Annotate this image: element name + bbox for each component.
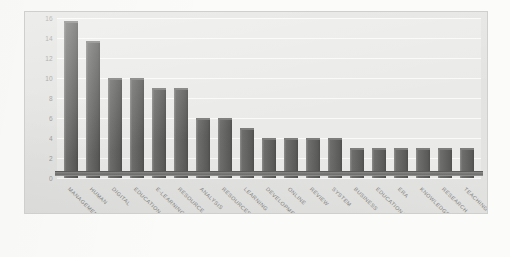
bar[interactable]	[196, 118, 210, 178]
bar[interactable]	[64, 21, 78, 178]
bar[interactable]	[86, 41, 100, 178]
bar[interactable]	[130, 78, 144, 178]
x-axis-baseline-3d	[55, 172, 483, 176]
bar-slot	[434, 18, 456, 178]
bar-slot	[346, 18, 368, 178]
bar-slot	[60, 18, 82, 178]
y-axis-tick-label: 0	[49, 175, 53, 182]
x-axis-category-label: ONLINE	[287, 186, 308, 206]
x-axis-category-label: SYSTEM	[331, 186, 353, 208]
x-axis-category-label: REVIEW	[309, 186, 330, 207]
bar-slot	[258, 18, 280, 178]
y-axis-tick-label: 12	[45, 55, 53, 62]
bar[interactable]	[152, 88, 166, 178]
bar-slot	[214, 18, 236, 178]
y-axis-tick-label: 6	[49, 115, 53, 122]
chart-panel: 1614121086420 MANAGEMENTHUMANDIGITALEDUC…	[24, 11, 488, 214]
bar-slot	[170, 18, 192, 178]
bar[interactable]	[218, 118, 232, 178]
y-axis-tick-label: 10	[45, 75, 53, 82]
bar-slot	[104, 18, 126, 178]
bar-slot	[82, 18, 104, 178]
plot-area: 1614121086420	[57, 18, 481, 178]
bar-slot	[192, 18, 214, 178]
bar-slot	[456, 18, 478, 178]
gridline	[57, 178, 481, 179]
x-axis-category-label: ERA	[397, 186, 410, 199]
x-axis-category-label: DIGITAL	[111, 186, 132, 207]
bar-slot	[280, 18, 302, 178]
bar[interactable]	[174, 88, 188, 178]
chart-screenshot: 1614121086420 MANAGEMENTHUMANDIGITALEDUC…	[0, 0, 510, 257]
y-axis-tick-label: 8	[49, 95, 53, 102]
bar-slot	[368, 18, 390, 178]
bar-series	[57, 18, 481, 178]
bar[interactable]	[108, 78, 122, 178]
y-axis-tick-label: 16	[45, 15, 53, 22]
y-axis-tick-label: 4	[49, 135, 53, 142]
bar-slot	[302, 18, 324, 178]
x-axis-category-label: HUMAN	[89, 186, 109, 206]
y-axis-tick-label: 14	[45, 35, 53, 42]
y-axis-tick-label: 2	[49, 155, 53, 162]
bar-slot	[148, 18, 170, 178]
bar-slot	[412, 18, 434, 178]
bar-slot	[236, 18, 258, 178]
bar-slot	[324, 18, 346, 178]
bar-slot	[126, 18, 148, 178]
bar-slot	[390, 18, 412, 178]
